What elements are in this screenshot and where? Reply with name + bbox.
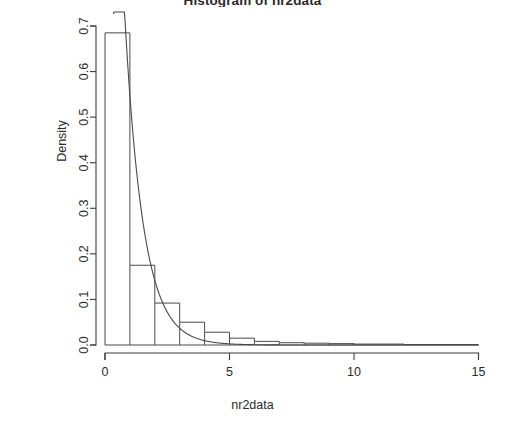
y-tick-label: 0.3 <box>77 200 91 217</box>
y-tick-label: 0.6 <box>77 63 91 80</box>
x-tick-label: 15 <box>472 365 486 379</box>
y-tick-label: 0.4 <box>77 154 91 171</box>
histogram-figure: Histogram of nr2data Density nr2data 0.0… <box>0 0 505 443</box>
y-tick-label: 0.1 <box>77 291 91 308</box>
x-tick-label: 5 <box>226 365 233 379</box>
density-curve <box>114 12 479 345</box>
x-tick-label: 10 <box>347 365 361 379</box>
y-axis: 0.00.10.20.30.40.50.60.7 <box>77 17 96 353</box>
y-tick-label: 0.2 <box>77 245 91 262</box>
y-tick-label: 0.0 <box>77 336 91 353</box>
density-curve-path <box>114 12 479 345</box>
y-tick-label: 0.7 <box>77 17 91 34</box>
y-tick-label: 0.5 <box>77 108 91 125</box>
x-axis: 051015 <box>102 353 486 379</box>
plot-canvas: 0.00.10.20.30.40.50.60.7 051015 <box>0 0 505 443</box>
x-tick-label: 0 <box>102 365 109 379</box>
